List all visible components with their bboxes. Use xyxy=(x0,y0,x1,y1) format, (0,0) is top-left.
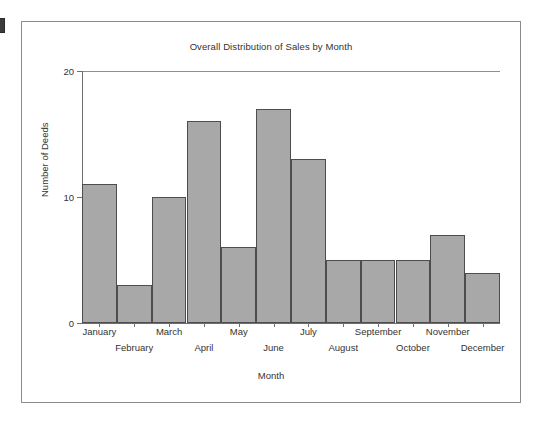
bar-series xyxy=(82,71,500,323)
x-tick-label-november: November xyxy=(426,326,470,337)
chart-figure-frame: Overall Distribution of Sales by Month N… xyxy=(21,21,521,403)
bar-january[interactable] xyxy=(82,184,117,323)
bar-june[interactable] xyxy=(256,109,291,323)
y-tick-label: 20 xyxy=(63,66,74,77)
bar-april[interactable] xyxy=(187,121,222,323)
x-tick-label-july: July xyxy=(300,326,317,337)
edge-artifact xyxy=(0,18,5,33)
bar-august[interactable] xyxy=(326,260,361,323)
bar-may[interactable] xyxy=(221,247,256,323)
x-axis-tick-labels: JanuaryFebruaryMarchAprilMayJuneJulyAugu… xyxy=(82,326,500,360)
x-tick-label-february: February xyxy=(115,342,153,353)
x-tick-label-october: October xyxy=(396,342,430,353)
bar-october[interactable] xyxy=(396,260,431,323)
x-axis-line xyxy=(82,323,500,324)
bar-july[interactable] xyxy=(291,159,326,323)
y-tick-label: 0 xyxy=(69,318,74,329)
x-tick-label-august: August xyxy=(328,342,358,353)
y-tick-mark xyxy=(77,323,82,324)
x-tick-label-may: May xyxy=(230,326,248,337)
y-axis-title: Number of Deeds xyxy=(39,123,50,197)
bar-february[interactable] xyxy=(117,285,152,323)
x-tick-label-april: April xyxy=(194,342,213,353)
y-tick-0: 0 xyxy=(82,323,83,324)
bar-september[interactable] xyxy=(361,260,396,323)
plot-area: 01020 xyxy=(82,71,500,323)
x-tick-label-june: June xyxy=(263,342,284,353)
x-tick-label-march: March xyxy=(156,326,182,337)
bar-november[interactable] xyxy=(430,235,465,323)
chart-title: Overall Distribution of Sales by Month xyxy=(22,41,520,52)
y-tick-label: 10 xyxy=(63,192,74,203)
x-tick-label-december: December xyxy=(461,342,505,353)
x-tick-label-january: January xyxy=(83,326,117,337)
x-axis-title: Month xyxy=(22,370,520,381)
bar-december[interactable] xyxy=(465,273,500,323)
x-tick-label-september: September xyxy=(355,326,401,337)
bar-march[interactable] xyxy=(152,197,187,323)
